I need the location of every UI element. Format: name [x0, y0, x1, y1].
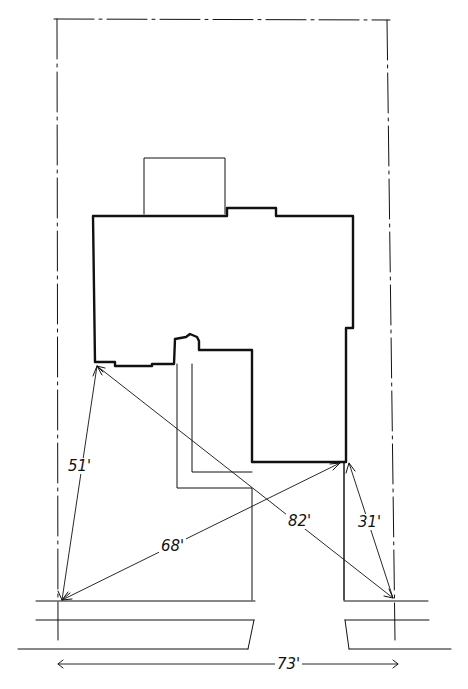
dimension-label-82: 82': [286, 513, 313, 529]
house-outline: [93, 208, 353, 462]
site-plan-drawing: [0, 0, 468, 689]
walkways: [177, 364, 252, 600]
rear-patio: [144, 158, 225, 214]
dimension-label-68: 68': [159, 538, 186, 554]
dimension-label-31: 31': [356, 514, 383, 530]
dimension-label-73: 73': [275, 656, 302, 672]
dimension-label-51: 51': [66, 458, 93, 474]
driveway: [18, 462, 451, 649]
